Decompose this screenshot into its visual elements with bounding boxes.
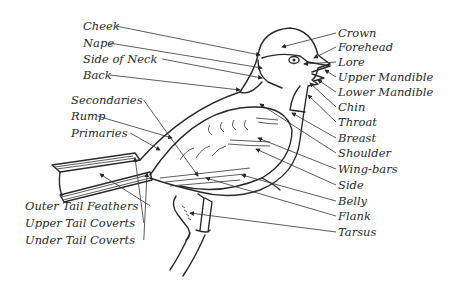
label-lore: Lore	[337, 55, 365, 69]
leader-crown	[282, 33, 336, 47]
label-back: Back	[82, 68, 112, 82]
leader-throat	[308, 95, 336, 122]
label-tarsus: Tarsus	[338, 225, 376, 239]
leader-primaries	[130, 133, 160, 150]
bird-topography-diagram: CheekNapeSide of NeckBackSecondariesRump…	[0, 0, 456, 284]
leader-cheek	[116, 26, 260, 55]
label-secondaries: Secondaries	[71, 93, 143, 107]
label-nape: Nape	[82, 36, 114, 50]
leader-back	[109, 75, 240, 90]
leader-upper-mandible	[325, 70, 336, 77]
label-wing-bars: Wing-bars	[338, 162, 398, 176]
leader-side-of-neck	[162, 59, 262, 78]
legs-and-perch	[170, 194, 212, 276]
leader-tarsus	[190, 213, 336, 232]
label-rump: Rump	[70, 109, 106, 123]
label-lower-mandible: Lower Mandible	[337, 85, 433, 99]
label-outer-tail-feathers: Outer Tail Feathers	[25, 199, 138, 213]
label-upper-tail-coverts: Upper Tail Coverts	[25, 216, 135, 230]
leader-breast	[292, 113, 336, 138]
label-cheek: Cheek	[83, 19, 120, 33]
tail-shape	[52, 153, 152, 202]
label-side: Side	[338, 178, 364, 192]
label-throat: Throat	[338, 115, 377, 129]
label-belly: Belly	[337, 194, 368, 208]
label-crown: Crown	[338, 26, 376, 40]
label-forehead: Forehead	[337, 40, 393, 54]
label-shoulder: Shoulder	[338, 146, 392, 160]
label-breast: Breast	[337, 131, 377, 145]
leader-upper-tail-coverts	[135, 158, 144, 223]
wing-shape	[150, 107, 292, 190]
label-flank: Flank	[337, 209, 371, 223]
leader-lower-mandible	[318, 80, 336, 92]
label-chin: Chin	[338, 100, 365, 114]
leader-chin	[310, 83, 336, 107]
label-side-of-neck: Side of Neck	[83, 52, 158, 66]
labels-left: CheekNapeSide of NeckBackSecondariesRump…	[25, 19, 158, 247]
leader-under-tail-coverts	[144, 173, 147, 240]
labels-right: CrownForeheadLoreUpper MandibleLower Man…	[337, 26, 433, 239]
label-upper-mandible: Upper Mandible	[338, 70, 433, 84]
leader-wing-bars	[258, 138, 336, 169]
label-under-tail-coverts: Under Tail Coverts	[25, 233, 135, 247]
label-primaries: Primaries	[70, 126, 128, 140]
